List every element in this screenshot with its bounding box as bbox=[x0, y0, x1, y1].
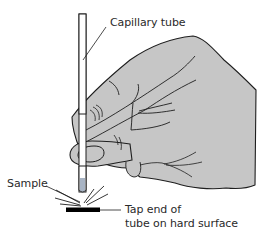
finger-tip bbox=[126, 162, 141, 177]
sample-fill bbox=[80, 178, 85, 191]
tap-label-line-2: tube on hard surface bbox=[125, 217, 238, 231]
tap-instruction-label: Tap end of tube on hard surface bbox=[125, 203, 238, 231]
capillary-tube-label: Capillary tube bbox=[110, 16, 185, 30]
capillary-tube bbox=[79, 14, 86, 192]
capillary-tube-illustration: Capillary tube Sample Tap end of tube on… bbox=[0, 0, 271, 237]
tap-label-line-1: Tap end of bbox=[125, 203, 238, 217]
sample-label: Sample bbox=[7, 177, 48, 191]
sample-leader-line bbox=[46, 186, 80, 202]
hand bbox=[70, 36, 256, 189]
hard-surface bbox=[66, 208, 100, 213]
illustration-canvas bbox=[0, 0, 271, 237]
tube-upper-visible bbox=[79, 14, 86, 114]
